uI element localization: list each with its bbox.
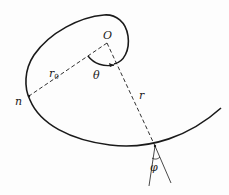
label-r: r — [139, 90, 144, 101]
diagram-canvas — [0, 0, 229, 195]
label-theta: θ — [93, 70, 100, 81]
label-phi: φ — [150, 162, 158, 173]
spiral-diagram: O r0 n θ r φ — [0, 0, 229, 195]
r-line — [107, 43, 155, 146]
point-n — [28, 95, 30, 97]
label-r0-subscript: 0 — [54, 73, 58, 81]
label-origin: O — [103, 30, 112, 41]
theta-arrowhead — [109, 63, 114, 67]
curve-point — [154, 145, 156, 147]
label-r0: r0 — [49, 68, 59, 81]
label-n: n — [15, 96, 22, 107]
